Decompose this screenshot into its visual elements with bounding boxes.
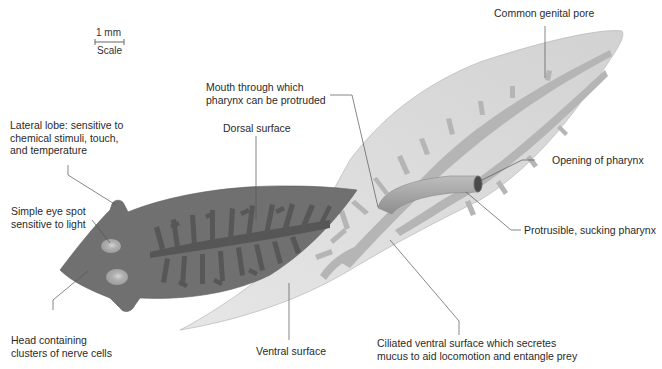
leader-ciliated [390,240,459,335]
scale-label: Scale [97,45,122,56]
label-ventral-surface: Ventral surface [256,345,326,358]
label-pharynx-opening: Opening of pharynx [552,154,644,167]
label-dorsal-surface: Dorsal surface [223,122,291,135]
label-head: Head containing clusters of nerve cells [11,334,112,359]
label-protrusible-pharynx: Protrusible, sucking pharynx [524,224,656,237]
label-ciliated-ventral: Ciliated ventral surface which secretes … [377,337,577,362]
pharynx-opening [474,176,482,192]
scale-value: 1 mm [96,27,121,38]
label-eye-spot: Simple eye spot sensitive to light [11,205,86,230]
eye-spot-lower [106,269,128,285]
label-mouth: Mouth through which pharynx can be protr… [206,81,326,106]
label-lateral-lobe: Lateral lobe: sensitive to chemical stim… [10,119,123,157]
label-genital-pore: Common genital pore [494,7,594,20]
eye-spot-upper [101,239,121,253]
leader-lateral-lobe [68,165,116,205]
